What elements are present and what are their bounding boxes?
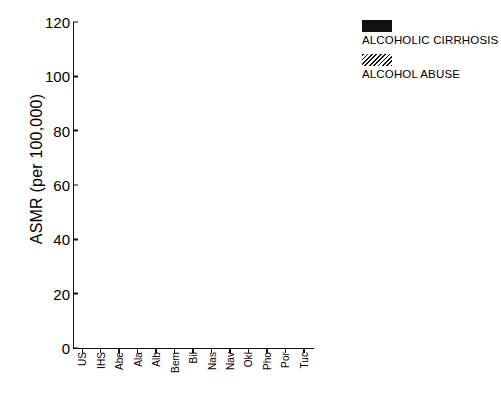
bar-group xyxy=(73,22,313,348)
bar-slot xyxy=(258,22,276,348)
legend: ALCOHOLIC CIRRHOSIS ALCOHOL ABUSE xyxy=(362,20,501,88)
bar-slot xyxy=(147,22,165,348)
bar-slot xyxy=(295,22,313,348)
y-tick-120: 120 xyxy=(45,14,73,31)
bar-slot xyxy=(239,22,257,348)
x-label-slot: Okl xyxy=(239,352,257,392)
y-tick-40: 40 xyxy=(53,231,73,248)
y-tick-60: 60 xyxy=(53,177,73,194)
x-tick-label-tuc: Tuc xyxy=(298,352,309,369)
x-label-slot: IHS xyxy=(91,352,109,392)
bar-slot xyxy=(184,22,202,348)
legend-swatch-hatched-icon xyxy=(362,54,392,66)
bar-slot xyxy=(110,22,128,348)
y-tick-100: 100 xyxy=(45,68,73,85)
x-tick-label-bil: Bil xyxy=(188,352,199,363)
x-label-slot: Por xyxy=(276,352,294,392)
y-axis-title: ASMR (per 100,000) xyxy=(28,19,46,319)
x-label-slot: Alb xyxy=(147,352,165,392)
bar-slot xyxy=(165,22,183,348)
bar-slot xyxy=(91,22,109,348)
x-tick-label-nas: Nas xyxy=(206,352,217,370)
x-label-slot: US xyxy=(73,352,91,392)
x-axis-labels: USIHSAbeAlaAlbBemBilNasNavOklPhoPorTuc xyxy=(73,352,313,392)
plot-area: 120 100 80 60 40 20 0 xyxy=(73,22,313,348)
y-tick-20: 20 xyxy=(53,285,73,302)
bar-slot xyxy=(73,22,91,348)
figure-container: ASMR (per 100,000) 120 100 80 60 40 20 0… xyxy=(0,0,501,395)
bar-slot xyxy=(128,22,146,348)
legend-label-alcohol-abuse: ALCOHOL ABUSE xyxy=(362,68,501,80)
x-tick-label-ala: Ala xyxy=(132,352,143,367)
x-tick-label-nav: Nav xyxy=(224,352,235,370)
y-tick-80: 80 xyxy=(53,122,73,139)
x-label-slot: Ala xyxy=(128,352,146,392)
x-tick-label-pho: Pho xyxy=(261,352,272,370)
bar-slot xyxy=(221,22,239,348)
legend-entry-alcohol-abuse: ALCOHOL ABUSE xyxy=(362,54,501,80)
x-tick-label-us: US xyxy=(77,352,88,366)
x-label-slot: Nav xyxy=(221,352,239,392)
x-label-slot: Bil xyxy=(184,352,202,392)
x-label-slot: Bem xyxy=(165,352,183,392)
y-tick-0: 0 xyxy=(62,340,73,357)
legend-swatch-solid-icon xyxy=(362,20,392,32)
bar-slot xyxy=(276,22,294,348)
x-tick-label-abe: Abe xyxy=(114,352,125,370)
x-tick-label-bem: Bem xyxy=(169,352,180,373)
x-label-slot: Abe xyxy=(110,352,128,392)
x-label-slot: Pho xyxy=(258,352,276,392)
x-tick-label-alb: Alb xyxy=(151,352,162,367)
bar-slot xyxy=(202,22,220,348)
x-tick-label-por: Por xyxy=(280,352,291,368)
x-tick-label-okl: Okl xyxy=(243,352,254,367)
legend-label-alcoholic-cirrhosis: ALCOHOLIC CIRRHOSIS xyxy=(362,34,501,46)
x-label-slot: Nas xyxy=(202,352,220,392)
legend-entry-alcoholic-cirrhosis: ALCOHOLIC CIRRHOSIS xyxy=(362,20,501,46)
x-label-slot: Tuc xyxy=(295,352,313,392)
x-tick-label-ihs: IHS xyxy=(95,352,106,369)
